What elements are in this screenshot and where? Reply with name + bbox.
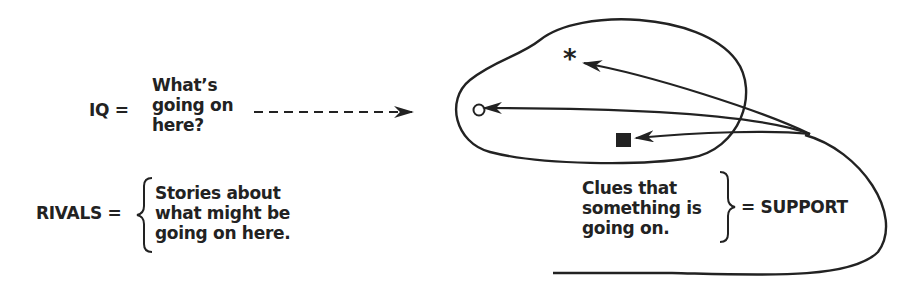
support-brace	[720, 172, 735, 242]
support-arrows	[484, 63, 810, 138]
iq-label: IQ =	[89, 100, 129, 120]
support-description-line: Clues that	[582, 178, 702, 198]
rivals-description-line: what might be	[155, 203, 290, 223]
rivals-brace	[137, 178, 152, 252]
support-description-line: going on.	[582, 218, 702, 238]
open-circle-icon	[474, 105, 485, 116]
iq-question-line: going on	[152, 95, 233, 115]
support-description: Clues that something is going on.	[582, 178, 702, 238]
iq-question-line: here?	[152, 115, 233, 135]
support-description-line: something is	[582, 198, 702, 218]
rivals-description-line: Stories about	[155, 183, 290, 203]
diagram-canvas: *	[0, 0, 903, 292]
question-blob-outline	[456, 19, 746, 163]
iq-question: What’s going on here?	[152, 75, 233, 135]
support-label: = SUPPORT	[741, 197, 848, 217]
rivals-label: RIVALS =	[36, 203, 121, 223]
iq-question-line: What’s	[152, 75, 233, 95]
rivals-description: Stories about what might be going on her…	[155, 183, 290, 243]
filled-square-icon	[616, 133, 631, 147]
svg-text:*: *	[563, 44, 577, 74]
asterisk-icon: *	[563, 44, 577, 74]
rivals-description-line: going on here.	[155, 223, 290, 243]
